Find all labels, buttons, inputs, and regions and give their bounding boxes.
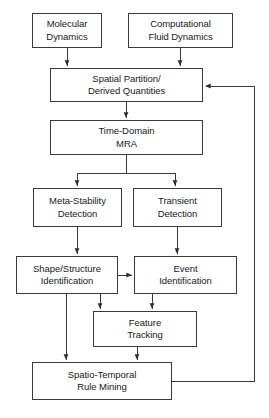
node-label-line: Meta-Stability — [49, 195, 106, 208]
node-label-line: Fluid Dynamics — [148, 31, 212, 44]
node-meta-stability-detection[interactable]: Meta-Stability Detection — [33, 188, 122, 227]
node-label-line: Tracking — [127, 329, 163, 342]
node-time-domain-mra[interactable]: Time-Domain MRA — [50, 120, 203, 155]
node-label-line: Rule Mining — [77, 381, 127, 394]
node-label-line: Transient — [158, 195, 197, 208]
node-label-line: Detection — [58, 208, 98, 221]
flowchart-diagram: Molecular Dynamics Computational Fluid D… — [0, 0, 269, 418]
node-label-line: Identification — [41, 275, 94, 288]
node-label-line: MRA — [116, 138, 137, 151]
node-spatio-temporal-rule-mining[interactable]: Spatio-Temporal Rule Mining — [32, 362, 172, 400]
node-transient-detection[interactable]: Transient Detection — [133, 188, 222, 227]
node-label-line: Event — [173, 263, 197, 276]
node-label-line: Spatio-Temporal — [68, 369, 136, 382]
node-spatial-partition-derived-quantities[interactable]: Spatial Partition/ Derived Quantities — [50, 68, 203, 102]
node-label-line: Derived Quantities — [88, 85, 165, 98]
node-label-line: Spatial Partition/ — [92, 73, 160, 86]
node-shape-structure-identification[interactable]: Shape/Structure Identification — [16, 256, 118, 294]
node-feature-tracking[interactable]: Feature Tracking — [93, 311, 197, 347]
node-molecular-dynamics[interactable]: Molecular Dynamics — [32, 13, 102, 48]
node-label-line: Dynamics — [46, 31, 87, 44]
node-label-line: Computational — [150, 18, 211, 31]
node-label-line: Molecular — [47, 18, 88, 31]
node-event-identification[interactable]: Event Identification — [134, 256, 237, 294]
node-label-line: Shape/Structure — [33, 263, 101, 276]
node-label-line: Identification — [159, 275, 212, 288]
node-label-line: Detection — [158, 208, 198, 221]
node-computational-fluid-dynamics[interactable]: Computational Fluid Dynamics — [128, 13, 233, 48]
node-label-line: Feature — [129, 317, 161, 330]
node-label-line: Time-Domain — [98, 125, 154, 138]
